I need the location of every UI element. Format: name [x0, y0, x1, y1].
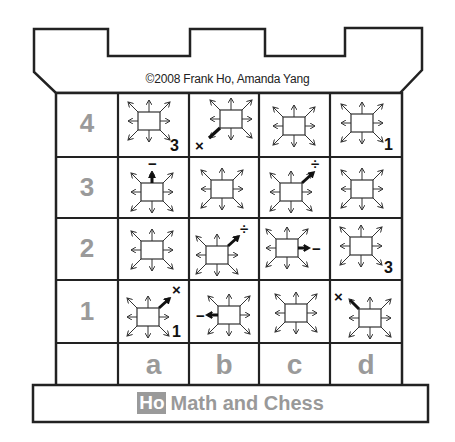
- copyright-text: ©2008 Frank Ho, Amanda Yang: [0, 72, 455, 86]
- number-d2: 3: [384, 259, 393, 277]
- number-d4: 1: [384, 136, 393, 154]
- rank-label-1: 1: [56, 296, 118, 327]
- operator-a3: −: [148, 155, 157, 172]
- operator-c2: −: [312, 240, 321, 257]
- ho-logo-badge: Ho: [137, 392, 166, 414]
- rank-label-2: 2: [56, 233, 118, 264]
- operator-d1: ×: [334, 288, 343, 305]
- rook-shaped-math-chess-board: ©2008 Frank Ho, Amanda Yang 4 3 2 1 a b …: [0, 0, 455, 442]
- rank-label-4: 4: [56, 108, 118, 139]
- file-label-d: d: [330, 344, 402, 386]
- file-label-c: c: [259, 344, 330, 386]
- operator-c3: ÷: [311, 155, 319, 172]
- footer-title: Math and Chess: [170, 392, 323, 414]
- number-a1: 1: [172, 323, 181, 341]
- rank-label-3: 3: [56, 172, 118, 203]
- operator-b1: −: [196, 307, 205, 324]
- number-a4: 3: [170, 137, 179, 155]
- operator-b2: ÷: [240, 220, 248, 237]
- operator-b4: ×: [195, 137, 204, 154]
- file-label-b: b: [189, 344, 259, 386]
- footer-banner: HoMath and Chess: [33, 385, 428, 422]
- operator-a1: ×: [172, 281, 181, 298]
- file-label-a: a: [118, 344, 189, 386]
